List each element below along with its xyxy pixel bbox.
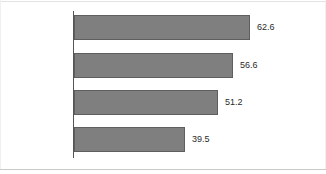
bar-value-label: 56.6 [240,53,258,78]
bar [74,15,250,40]
bar-value-label: 62.6 [257,15,275,40]
bar-value-label: 39.5 [192,127,210,152]
bar [74,127,185,152]
bar-value-label: 51.2 [225,90,243,115]
plot-area: 서울대 62.6 SKY(서·고·연) 56.6 서울 15개 대학 51.2 … [0,0,326,170]
bar [74,90,218,115]
bar-chart-screenshot: 서울대 62.6 SKY(서·고·연) 56.6 서울 15개 대학 51.2 … [0,0,326,174]
bar [74,53,233,78]
